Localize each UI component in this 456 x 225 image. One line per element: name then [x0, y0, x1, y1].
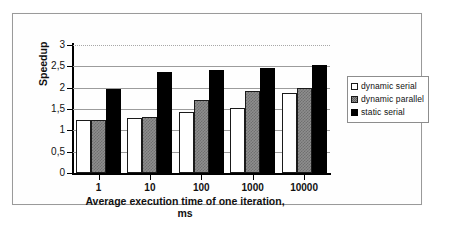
x-axis-tick-label-10000: 10000	[284, 182, 324, 193]
x-axis-tick-label-100: 100	[181, 182, 221, 193]
bar-group-10000	[282, 45, 327, 173]
legend-item-dynamic-serial[interactable]: dynamic serial	[351, 80, 426, 93]
x-axis-tick	[150, 175, 151, 180]
plot-area	[73, 45, 330, 173]
x-axis-tick	[99, 175, 100, 180]
y-axis-tick	[67, 130, 73, 131]
x-axis-tick	[201, 175, 202, 180]
y-axis-tick-labels: 32,521,510,50	[27, 45, 65, 173]
bar-dynamic-serial-1[interactable]	[76, 120, 91, 173]
x-axis-tick	[304, 175, 305, 180]
y-axis-tick	[67, 88, 73, 89]
bar-dynamic-parallel-1000[interactable]	[245, 91, 260, 173]
bar-static-serial-10[interactable]	[157, 72, 172, 173]
x-axis-tick	[253, 175, 254, 180]
bar-static-serial-1000[interactable]	[260, 68, 275, 173]
bar-dynamic-serial-100[interactable]	[179, 112, 194, 173]
y-axis-tick-label: 1	[59, 125, 65, 135]
chart-figure-frame: Speedup 32,521,510,50 110100100010000 Av…	[12, 13, 422, 205]
bar-group-100	[179, 45, 224, 173]
y-axis-tick-label: 2	[59, 83, 65, 93]
x-axis-title-line-2: ms	[35, 207, 335, 219]
x-axis-title-line-1: Average execution time of one iteration,	[35, 195, 335, 207]
legend-swatch-icon	[351, 83, 358, 90]
legend-item-dynamic-parallel[interactable]: dynamic parallel	[351, 93, 426, 106]
bar-static-serial-10000[interactable]	[312, 65, 327, 173]
bar-group-1	[76, 45, 121, 173]
legend-label: dynamic serial	[361, 82, 417, 91]
bar-dynamic-serial-10[interactable]	[127, 118, 142, 173]
legend-item-static-serial[interactable]: static serial	[351, 106, 426, 119]
x-axis-tick-label-1000: 1000	[233, 182, 273, 193]
y-axis-tick-label: 1,5	[51, 104, 65, 114]
bar-dynamic-parallel-100[interactable]	[194, 100, 209, 173]
bar-dynamic-parallel-1[interactable]	[91, 120, 106, 173]
legend-label: dynamic parallel	[361, 95, 424, 104]
y-axis-tick	[67, 109, 73, 110]
y-axis-tick	[67, 66, 73, 67]
bar-group-1000	[230, 45, 275, 173]
legend-swatch-icon	[351, 109, 358, 116]
bar-dynamic-serial-1000[interactable]	[230, 108, 245, 173]
bar-dynamic-parallel-10[interactable]	[142, 117, 157, 173]
x-axis-tick-labels: 110100100010000	[73, 182, 330, 196]
x-axis-title: Average execution time of one iteration,…	[35, 195, 335, 219]
x-axis-tick-label-1: 1	[79, 182, 119, 193]
y-axis-tick-label: 2,5	[51, 61, 65, 71]
y-axis-tick	[67, 173, 73, 174]
legend-swatch-icon	[351, 96, 358, 103]
y-axis-tick-label: 0	[59, 168, 65, 178]
bar-static-serial-100[interactable]	[209, 70, 224, 173]
legend-label: static serial	[361, 108, 405, 117]
y-axis-tick-label: 0,5	[51, 147, 65, 157]
y-axis-tick	[67, 152, 73, 153]
x-axis-tick-label-10: 10	[130, 182, 170, 193]
bar-group-10	[127, 45, 172, 173]
y-axis-tick-label: 3	[59, 40, 65, 50]
bar-dynamic-parallel-10000[interactable]	[297, 88, 312, 173]
chart-legend: dynamic serialdynamic parallelstatic ser…	[347, 76, 429, 123]
y-axis-tick	[67, 45, 73, 46]
bar-dynamic-serial-10000[interactable]	[282, 93, 297, 173]
bar-static-serial-1[interactable]	[106, 89, 121, 173]
